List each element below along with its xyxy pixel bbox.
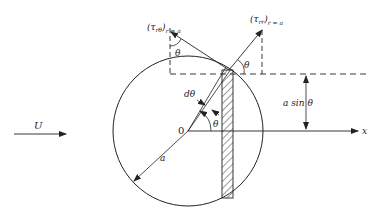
theta-arc-top-left <box>170 39 181 46</box>
theta-arc-center <box>200 111 211 131</box>
a-sin-theta-label: a sin θ <box>283 98 313 108</box>
cylinder-flow-diagram: (τrθ)r = a (τrr)r = a θ θ θ dθ 0 a a sin… <box>0 0 378 217</box>
radius-label: a <box>160 153 165 163</box>
hatched-strip <box>222 70 233 198</box>
tau-rtheta-label: (τrθ)r = a <box>147 22 181 34</box>
tau-rr-label: (τrr)r = a <box>250 14 283 26</box>
theta-top-left-label: θ <box>175 48 181 58</box>
dtheta-arrow-1 <box>197 100 205 105</box>
free-stream-label: U <box>34 120 43 131</box>
radius-line-1 <box>188 67 226 131</box>
theta-center-label: θ <box>213 119 219 129</box>
theta-top-right-label: θ <box>244 60 250 70</box>
x-axis-label: x <box>362 126 367 136</box>
origin-label: 0 <box>178 125 184 136</box>
dtheta-label: dθ <box>184 89 196 99</box>
dtheta-arrow-2 <box>212 110 219 115</box>
